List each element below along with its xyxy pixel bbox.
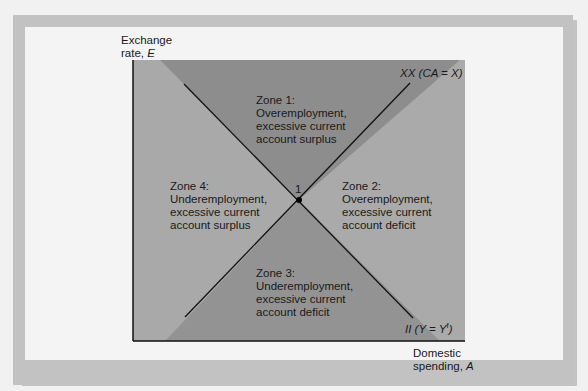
y-axis-label-line1: Exchange: [121, 34, 172, 47]
zone-4-label: Zone 4: Underemployment, excessive curre…: [170, 180, 267, 232]
xx-curve-label: XX (CA = X): [400, 67, 463, 80]
diagram-canvas: [0, 0, 588, 391]
zone-2-label: Zone 2: Overemployment, excessive curren…: [342, 180, 433, 232]
equilibrium-label: 1: [295, 183, 301, 196]
y-axis-label: Exchange rate, E: [121, 34, 172, 60]
equilibrium-point: [296, 197, 302, 203]
x-axis-label-line2: spending, A: [413, 360, 474, 373]
zone-3-label: Zone 3: Underemployment, excessive curre…: [256, 267, 353, 319]
x-axis-label: Domestic spending, A: [413, 347, 474, 373]
ii-curve-label: II (Y = Yf): [405, 319, 453, 336]
zone-1-label: Zone 1: Overemployment, excessive curren…: [256, 94, 347, 146]
y-axis-label-line2: rate, E: [121, 47, 172, 60]
x-axis-label-line1: Domestic: [413, 347, 474, 360]
